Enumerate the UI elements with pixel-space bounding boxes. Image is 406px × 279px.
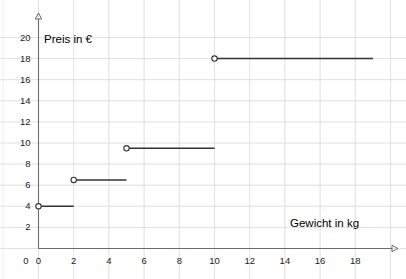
x-tick-label-10: 10	[200, 256, 230, 266]
x-tick-label-14: 14	[270, 256, 300, 266]
axis-lines	[35, 13, 398, 252]
x-tick-label-8: 8	[164, 256, 194, 266]
y-tick-label-16: 16	[7, 75, 31, 85]
y-tick-label-4: 4	[7, 201, 31, 211]
x-tick-label-12: 12	[235, 256, 265, 266]
y-tick-label-8: 8	[7, 159, 31, 169]
x-tick-label-16: 16	[305, 256, 335, 266]
chart-container: 02468101214161802468101214161820 Preis i…	[0, 0, 406, 279]
y-tick-label-18: 18	[7, 54, 31, 64]
open-circle-marker-1	[71, 177, 76, 182]
y-tick-label-2: 2	[7, 222, 31, 232]
y-tick-label-10: 10	[7, 138, 31, 148]
y-tick-label-6: 6	[7, 180, 31, 190]
x-tick-label-2: 2	[59, 256, 89, 266]
y-tick-label-20: 20	[7, 33, 31, 43]
step-series	[36, 56, 373, 209]
open-circle-marker-3	[212, 56, 217, 61]
x-tick-label-6: 6	[129, 256, 159, 266]
x-tick-label-18: 18	[340, 256, 370, 266]
y-tick-label-12: 12	[7, 117, 31, 127]
y-axis-title: Preis in €	[44, 34, 92, 46]
open-circle-marker-2	[124, 146, 129, 151]
y-tick-label-14: 14	[7, 96, 31, 106]
open-circle-marker-0	[36, 204, 41, 209]
x-tick-label-4: 4	[94, 256, 124, 266]
x-axis-title: Gewicht in kg	[290, 218, 359, 230]
y-tick-label-0: 0	[5, 256, 29, 266]
